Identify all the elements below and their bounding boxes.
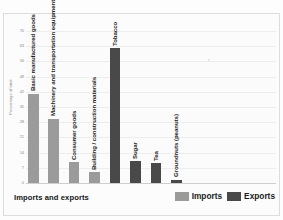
bar[interactable] [130,161,141,183]
bar-category-label: Tea [153,151,159,161]
bar-group[interactable]: Machinery and transportation equipment [48,31,68,183]
legend-label: Exports [244,192,275,200]
bar-group[interactable]: Consumer goods [69,31,89,183]
bar[interactable] [89,172,100,183]
bar[interactable] [151,163,162,183]
chart-legend: ImportsExports [175,192,275,201]
bar-group[interactable]: Tea [151,31,171,183]
bar-category-label: Basic manufactured goods [30,14,36,91]
bar[interactable] [69,162,80,183]
y-tick-label: 28 [6,120,24,124]
bar-group[interactable]: Groundnuts (peanuts) [171,31,191,183]
bar[interactable] [28,94,39,183]
bar-group[interactable]: Tobacco [110,31,130,183]
y-tick-label: 56 [6,59,24,63]
bar-category-label: Consumer goods [71,110,77,159]
y-axis-ticks: 70635649423528211470 [6,31,24,183]
chart-title: Imports and exports [14,194,89,202]
y-tick-label: 0 [6,181,24,185]
bar[interactable] [48,119,59,183]
bar-category-label: Machinery and transportation equipment [50,0,56,116]
legend-swatch [227,192,241,201]
legend-label: Imports [192,192,222,200]
bar-group[interactable]: Sugar [130,31,150,183]
legend-entry[interactable]: Exports [227,192,275,201]
bar-category-label: Groundnuts (peanuts) [173,114,179,177]
bars-layer: Basic manufactured goodsMachinery and tr… [26,31,276,183]
x-axis-baseline [26,183,276,184]
y-tick-label: 14 [6,151,24,155]
y-tick-label: 21 [6,135,24,139]
legend-swatch [175,192,189,201]
bar-group[interactable]: Basic manufactured goods [28,31,48,183]
y-tick-label: 7 [6,166,24,170]
y-tick-label: 49 [6,75,24,79]
bar[interactable] [110,48,121,183]
y-tick-label: 42 [6,90,24,94]
y-tick-label: 70 [6,29,24,33]
bar[interactable] [171,180,182,183]
bar-category-label: Tobacco [112,22,118,46]
bar-chart-figure: Percentage of total 70635649423528211470… [0,0,283,220]
legend-entry[interactable]: Imports [175,192,222,201]
bar-category-label: Building / construction materials [91,77,97,170]
bar-category-label: Sugar [132,142,138,159]
bar-group[interactable]: Building / construction materials [89,31,109,183]
y-tick-label: 63 [6,44,24,48]
y-tick-label: 35 [6,105,24,109]
